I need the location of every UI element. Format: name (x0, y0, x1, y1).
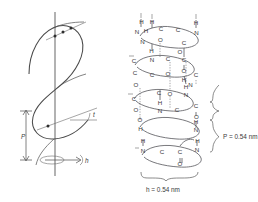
pitch-dimension-right: P = 0.54 nm (210, 85, 258, 152)
backbone-turn-1 (140, 26, 198, 48)
atom-label-c: C (178, 148, 183, 155)
atom-label-o: O (158, 36, 163, 43)
bond-curve (180, 139, 194, 146)
angle-symbol-label: t (93, 111, 95, 118)
atom-label-n: N (140, 38, 144, 45)
residue-dot (47, 125, 50, 128)
rise-brace (141, 172, 198, 181)
atom-label-h: H (194, 118, 198, 125)
atom-label-c: C (157, 89, 162, 96)
helix-figure: t P h (0, 0, 258, 202)
atom-label-c: C (182, 56, 187, 63)
left-helix-panel: t P h (20, 12, 97, 176)
atom-label-c: C (132, 57, 137, 64)
atom-label-n: N (194, 29, 198, 36)
residue-chord-bottom (37, 108, 97, 130)
atom-label-c: C (159, 25, 164, 32)
pitch-brace-lower (210, 120, 219, 152)
atom-label-o: O (178, 48, 183, 55)
residue-chord-top (46, 22, 86, 40)
atom-label-o: O (166, 70, 171, 77)
atom-label-n: N (150, 56, 154, 63)
residue-dot (54, 35, 57, 38)
helix-back-stroke-bottom (36, 139, 54, 165)
helix-back-stroke-mid (62, 74, 86, 84)
rise-symbol-label: h (85, 157, 89, 164)
atom-label-c: C (166, 55, 171, 62)
atom-label-c: C (175, 106, 180, 113)
atom-label-c: C (132, 95, 137, 102)
atom-label-h: H (144, 27, 148, 34)
pitch-measure-left: P (20, 110, 32, 161)
atom-label-n: N (194, 126, 198, 133)
atom-label-n: N (195, 146, 199, 153)
backbone-turn-4 (140, 117, 199, 139)
pitch-brace-upper (210, 85, 219, 102)
atom-label-n: N (158, 107, 162, 114)
pitch-dimension-label: P = 0.54 nm (223, 133, 258, 140)
atom-label-o: O (134, 81, 139, 88)
residue-dot (62, 31, 65, 34)
atom-label-h: H (182, 76, 186, 83)
atom-label-h: H (141, 137, 145, 144)
atom-label-h: H (194, 19, 198, 26)
atom-label-o: O (178, 160, 183, 167)
atom-label-h: H (158, 99, 162, 106)
atom-label-o: O (168, 90, 173, 97)
atom-label-h: H (195, 137, 199, 144)
rise-measure-left: h (40, 155, 89, 165)
atom-label-n: N (188, 81, 192, 88)
atom-label-h: H (138, 125, 142, 132)
atom-label-h: H (149, 47, 153, 54)
angle-arc (88, 113, 90, 120)
rise-dimension-label: h = 0.54 nm (146, 186, 180, 193)
residue-dot (70, 27, 73, 30)
atom-label-c: C (160, 148, 165, 155)
backbone-turn-5 (142, 145, 201, 167)
atom-label-h: H (184, 83, 188, 90)
rise-dimension-right: h = 0.54 nm (141, 172, 198, 193)
atom-label-n: N (141, 147, 145, 154)
atom-label-c: C (194, 71, 199, 78)
atom-label-c: C (176, 26, 181, 33)
atom-label-n: N (184, 91, 188, 98)
atom-label-h: H (139, 18, 143, 25)
atom-label-o: O (182, 67, 187, 74)
atom-label-c: C (133, 69, 138, 76)
right-structure-panel: HNHCCHHNNOCHONCCCOCCOHCNOCONHCOHNCCOOHNH… (128, 13, 258, 193)
atom-label-c: C (150, 71, 155, 78)
atom-label-c: C (182, 39, 187, 46)
atom-label-h: H (150, 18, 154, 25)
pitch-symbol-label: P (21, 133, 26, 140)
atom-label-o: O (134, 106, 139, 113)
atom-label-o: O (138, 116, 143, 123)
atom-label-n: N (135, 28, 139, 35)
atom-label-c: C (194, 102, 199, 109)
pitch-brace (210, 102, 219, 120)
